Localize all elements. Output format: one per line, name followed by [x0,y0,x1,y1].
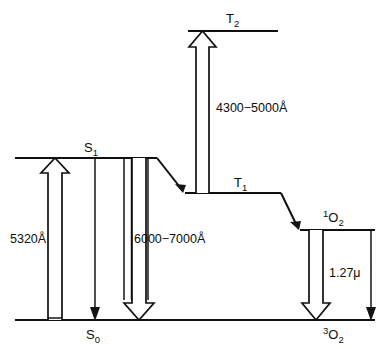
label-oxygen-emission-wavelength: 1.27μ [329,266,361,280]
label-t1-sub: 1 [242,182,247,193]
label-triplet-oxygen: 3O2 [323,325,344,345]
label-t1-main: T [234,175,242,190]
label-t1: T1 [234,175,247,193]
jablonski-diagram-canvas: S1 S0 T2 T1 1O2 3O2 5320Å 6000−7000Å 430… [0,0,387,349]
label-s0-main: S [86,327,95,342]
triplet-absorption-arrow-outline [189,31,216,193]
label-singlet-oxygen: 1O2 [323,208,344,228]
label-triplet-oxygen-main: O [328,327,338,342]
label-singlet-oxygen-sub: 2 [338,217,343,228]
label-triplet-oxygen-sub: 2 [338,334,343,345]
label-s0-sub: 0 [95,334,100,345]
label-t2-sub: 2 [234,18,239,29]
fluorescence-thin-arrow [90,158,100,321]
energy-level-diagram: S1 S0 T2 T1 1O2 3O2 5320Å 6000−7000Å 430… [0,0,387,349]
singlet-oxygen-emission-outline [302,230,330,320]
label-s0: S0 [86,327,100,345]
triplet-absorption-arrow-4300-5000 [189,31,216,193]
energy-transfer-arrowhead [290,221,301,230]
label-fluorescence-wavelength: 6000−7000Å [134,231,206,246]
label-s1-sub: 1 [93,147,98,158]
label-triplet-absorption-wavelength: 4300−5000Å [216,100,288,115]
fluorescence-thin-arrowhead [90,307,100,321]
oxygen-emission-arrowhead [366,307,376,321]
label-t2: T2 [226,11,239,29]
label-s1-main: S [84,140,93,155]
singlet-oxygen-emission-arrow [302,230,330,320]
label-t2-main: T [226,11,234,26]
oxygen-emission-1-27-arrow [366,230,376,321]
intersystem-crossing-arrowhead [175,184,186,193]
label-absorption-wavelength: 5320Å [10,231,47,246]
label-singlet-oxygen-main: O [328,210,338,225]
label-s1: S1 [84,140,98,158]
